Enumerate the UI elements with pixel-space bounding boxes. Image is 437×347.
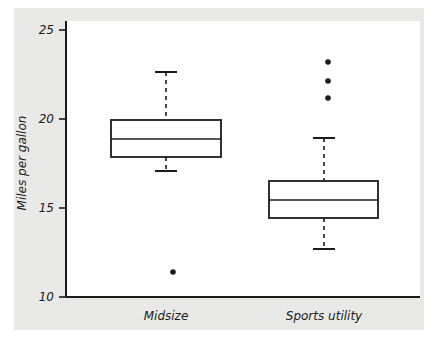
- y-tick-label-25: 25: [39, 23, 54, 37]
- suv-outlier-point: [325, 78, 331, 84]
- y-tick-label-15: 15: [39, 201, 54, 215]
- y-tick-label-10: 10: [39, 290, 55, 304]
- boxplot-figure: 10 15 20 25 Miles per gallon: [0, 0, 437, 347]
- x-category-label-midsize: Midsize: [144, 309, 189, 323]
- boxplot-canvas: 10 15 20 25 Miles per gallon: [0, 0, 437, 347]
- suv-outlier-point: [325, 95, 331, 101]
- y-axis-title: Miles per gallon: [15, 116, 29, 211]
- suv-outlier-point: [325, 59, 331, 65]
- x-category-label-sports-utility: Sports utility: [286, 309, 363, 323]
- plot-panel-background: [66, 21, 420, 297]
- midsize-outlier-point: [170, 269, 176, 275]
- y-tick-label-20: 20: [39, 112, 55, 126]
